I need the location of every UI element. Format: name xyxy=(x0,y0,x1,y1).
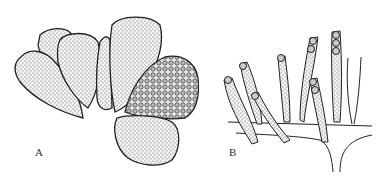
panel-label-a: A xyxy=(35,146,43,158)
sporangium-a7 xyxy=(115,116,179,165)
spore xyxy=(333,40,340,47)
hypha-branch xyxy=(340,135,372,172)
figure-canvas: A B xyxy=(0,0,385,183)
spore xyxy=(240,63,247,70)
spore xyxy=(333,48,340,55)
panel-label-b: B xyxy=(229,146,236,158)
spore xyxy=(310,79,317,86)
spore xyxy=(308,46,315,53)
spore xyxy=(310,38,317,45)
spore xyxy=(312,87,319,94)
spore xyxy=(225,77,232,84)
spore xyxy=(278,55,285,62)
panel-b xyxy=(224,31,372,172)
panel-a xyxy=(15,17,199,165)
sporangium-b4 xyxy=(278,56,290,122)
empty-sporophore xyxy=(347,57,361,124)
spore xyxy=(252,93,259,100)
spore xyxy=(333,32,340,39)
